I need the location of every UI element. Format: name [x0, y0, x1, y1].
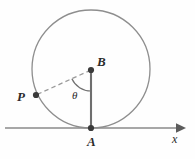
x-axis-arrowhead — [176, 123, 186, 133]
label-axis-x: x — [171, 132, 178, 146]
point-marker-b — [88, 67, 94, 73]
segment-p-to-b-dashed — [37, 71, 89, 95]
geometry-figure: B P A θ x — [0, 0, 195, 159]
label-angle-theta: θ — [72, 89, 78, 101]
label-point-p: P — [17, 89, 26, 104]
figure-canvas: B P A θ x — [0, 0, 195, 159]
label-point-b: B — [96, 54, 106, 69]
point-marker-p — [33, 92, 39, 98]
point-marker-a — [88, 125, 94, 131]
label-point-a: A — [86, 134, 96, 149]
